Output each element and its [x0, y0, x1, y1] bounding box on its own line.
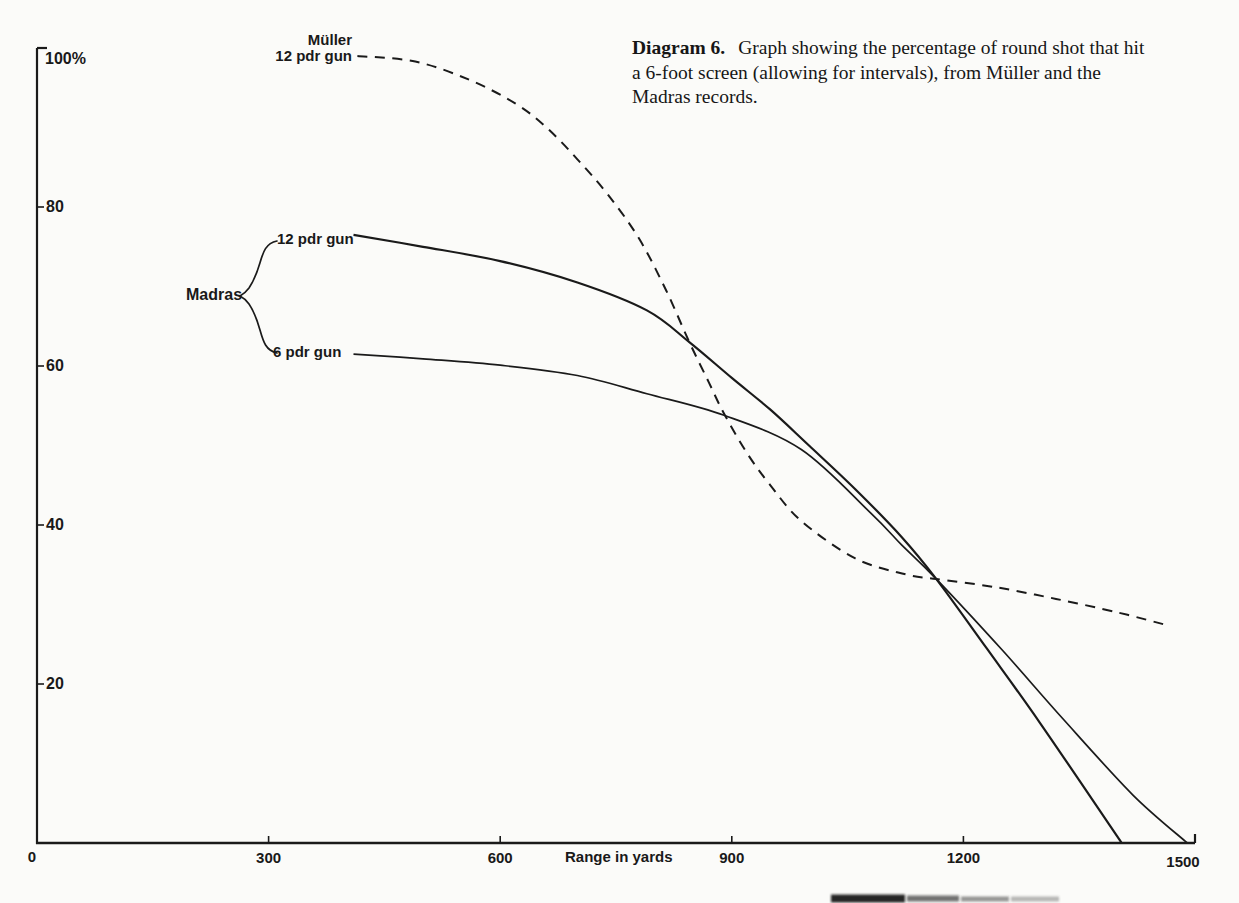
x-tick-label: 1200	[947, 849, 980, 866]
madras-12pdr-label: 12 pdr gun	[277, 231, 354, 247]
x-tick-label: 900	[719, 849, 744, 866]
y-tick-label: 80	[46, 198, 64, 216]
y-tick-label: 60	[46, 357, 64, 375]
muller-series-label: Müller 12 pdr gun	[252, 32, 352, 64]
madras-group-label: Madras	[186, 287, 242, 303]
muller-series-label-line1: Müller	[252, 32, 352, 48]
cropped-print-artifact	[831, 895, 1059, 903]
madras-brace	[240, 241, 277, 353]
madras-12pdr-curve	[354, 235, 1122, 843]
y-tick-label: 40	[46, 516, 64, 534]
y-tick-label: 100%	[45, 50, 86, 68]
diagram-caption: Diagram 6.Graph showing the percentage o…	[632, 36, 1148, 110]
x-axis-title: Range in yards	[565, 849, 673, 865]
muller-12pdr-curve	[357, 56, 1164, 624]
x-tick-label: 300	[256, 849, 281, 866]
muller-series-label-line2: 12 pdr gun	[252, 48, 352, 64]
scanned-page: Diagram 6.Graph showing the percentage o…	[0, 0, 1239, 903]
chart-canvas	[0, 0, 1239, 903]
curves-layer	[354, 56, 1188, 843]
diagram-caption-number: Diagram 6.	[632, 37, 725, 58]
x-tick-label: 1500	[1166, 853, 1199, 870]
madras-6pdr-curve	[354, 354, 1188, 843]
madras-6pdr-label: 6 pdr gun	[273, 344, 341, 360]
axes-layer	[36, 48, 1195, 844]
x-tick-label: 600	[488, 849, 513, 866]
y-tick-label: 20	[46, 675, 64, 693]
x-tick-label: 0	[28, 848, 36, 865]
